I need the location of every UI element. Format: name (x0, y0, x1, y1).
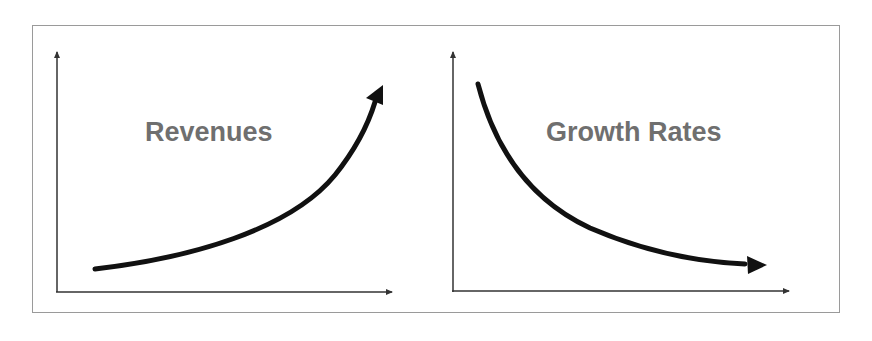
growth-rates-label: Growth Rates (546, 117, 722, 147)
revenues-label: Revenues (145, 117, 273, 147)
diagram-canvas: Revenues Growth Rates (0, 0, 872, 341)
growth-rates-panel: Growth Rates (452, 52, 789, 292)
growth-rates-curve (478, 84, 745, 264)
growth-rates-arrowhead-icon (747, 256, 767, 274)
revenues-panel: Revenues (56, 52, 392, 292)
